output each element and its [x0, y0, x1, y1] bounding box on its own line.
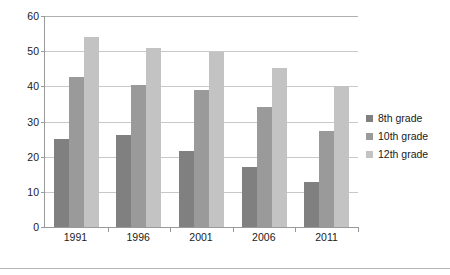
bar-1991-10th-grade	[69, 77, 84, 227]
x-axis-tick-label: 2006	[232, 232, 295, 243]
bar-group-1991	[45, 16, 108, 227]
bar-2001-10th-grade	[194, 90, 209, 227]
legend-swatch-icon	[366, 151, 373, 158]
bar-2011-10th-grade	[319, 131, 334, 227]
bar-group-2011	[295, 16, 358, 227]
y-axis-tick-label: 20	[27, 151, 39, 162]
bar-2011-8th-grade	[304, 182, 319, 227]
legend-label: 12th grade	[378, 149, 428, 160]
x-axis-tick-label: 1996	[107, 232, 170, 243]
legend-item-10th-grade: 10th grade	[366, 128, 428, 144]
bar-2011-12th-grade	[334, 86, 349, 227]
bar-2006-8th-grade	[242, 167, 257, 227]
x-axis-tick-label: 1991	[44, 232, 107, 243]
bar-2006-10th-grade	[257, 107, 272, 227]
bar-2001-8th-grade	[179, 151, 194, 227]
bar-2001-12th-grade	[209, 52, 224, 227]
y-axis-tick-label: 50	[27, 46, 39, 57]
bar-group-2006	[233, 16, 296, 227]
y-axis-tick-label: 30	[27, 116, 39, 127]
bars-layer	[45, 16, 358, 227]
y-axis-tick-label: 60	[27, 11, 39, 22]
legend-label: 10th grade	[378, 131, 428, 142]
legend-label: 8th grade	[378, 113, 422, 124]
x-axis-tick-label: 2011	[295, 232, 358, 243]
plot-wrapper: 0102030405060	[44, 16, 358, 228]
bar-2006-12th-grade	[272, 68, 287, 227]
bottom-divider	[0, 268, 450, 269]
bar-1996-12th-grade	[146, 48, 161, 227]
bar-chart-figure: 0102030405060 19911996200120062011 8th g…	[0, 0, 450, 275]
bar-1996-8th-grade	[116, 135, 131, 227]
legend-item-8th-grade: 8th grade	[366, 110, 428, 126]
legend-item-12th-grade: 12th grade	[366, 146, 428, 162]
x-tick-mark	[358, 227, 359, 232]
x-axis-labels: 19911996200120062011	[44, 232, 358, 243]
x-axis-tick-label: 2001	[170, 232, 233, 243]
legend-swatch-icon	[366, 115, 373, 122]
y-axis-tick-label: 10	[27, 187, 39, 198]
bar-1991-8th-grade	[54, 139, 69, 227]
bar-1996-10th-grade	[131, 85, 146, 227]
bar-group-1996	[108, 16, 171, 227]
y-axis-tick-label: 40	[27, 81, 39, 92]
y-axis-tick-label: 0	[33, 222, 39, 233]
chart-legend: 8th grade10th grade12th grade	[366, 110, 428, 164]
plot-area: 0102030405060	[44, 16, 358, 228]
legend-swatch-icon	[366, 133, 373, 140]
bar-1991-12th-grade	[84, 37, 99, 227]
bar-group-2001	[170, 16, 233, 227]
y-tick-mark-0	[41, 227, 45, 228]
